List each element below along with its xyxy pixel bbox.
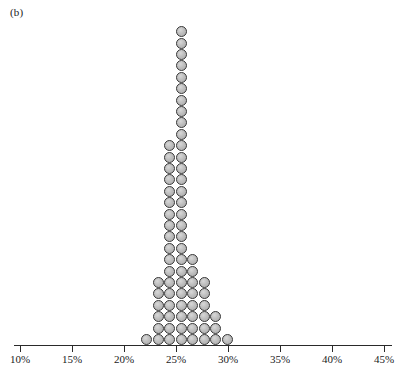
figure-canvas: (b) 10%15%20%25%30%35%40%45% <box>0 0 400 369</box>
x-axis-tick-label: 25% <box>146 353 206 365</box>
data-dot <box>176 152 187 163</box>
data-dot <box>153 288 164 299</box>
data-dot <box>164 300 175 311</box>
data-dot <box>187 288 198 299</box>
data-dot <box>199 334 210 345</box>
data-dot <box>176 197 187 208</box>
x-axis-tick <box>280 346 281 352</box>
x-axis-tick <box>176 346 177 352</box>
x-axis-tick-label: 45% <box>354 353 400 365</box>
data-dot <box>176 231 187 242</box>
data-dot <box>176 117 187 128</box>
data-dot <box>164 254 175 265</box>
data-dot <box>176 277 187 288</box>
data-dot <box>164 266 175 277</box>
data-dot <box>164 220 175 231</box>
x-axis-line <box>14 345 392 346</box>
data-dot <box>176 300 187 311</box>
dot-plot-area <box>0 0 400 345</box>
data-dot <box>176 72 187 83</box>
data-dot <box>176 254 187 265</box>
data-dot <box>164 243 175 254</box>
data-dot <box>176 220 187 231</box>
data-dot <box>164 277 175 288</box>
x-axis-tick <box>384 346 385 352</box>
data-dot <box>164 152 175 163</box>
data-dot <box>176 95 187 106</box>
x-axis-tick <box>332 346 333 352</box>
data-dot <box>199 300 210 311</box>
data-dot <box>199 277 210 288</box>
x-axis-tick <box>72 346 73 352</box>
data-dot <box>153 277 164 288</box>
data-dot <box>176 83 187 94</box>
x-axis-tick <box>20 346 21 352</box>
data-dot <box>176 243 187 254</box>
data-dot <box>176 129 187 140</box>
data-dot <box>164 323 175 334</box>
data-dot <box>176 311 187 322</box>
data-dot <box>187 334 198 345</box>
data-dot <box>210 311 221 322</box>
data-dot <box>176 174 187 185</box>
data-dot <box>199 323 210 334</box>
data-dot <box>187 254 198 265</box>
data-dot <box>164 288 175 299</box>
data-dot <box>187 266 198 277</box>
data-dot <box>176 163 187 174</box>
x-axis-tick-label: 35% <box>250 353 310 365</box>
x-axis-tick-label: 40% <box>302 353 362 365</box>
data-dot <box>164 231 175 242</box>
data-dot <box>164 163 175 174</box>
data-dot <box>176 38 187 49</box>
data-dot <box>199 311 210 322</box>
data-dot <box>176 26 187 37</box>
x-axis-tick-label: 30% <box>198 353 258 365</box>
data-dot <box>164 174 175 185</box>
data-dot <box>153 300 164 311</box>
data-dot <box>187 300 198 311</box>
data-dot <box>176 140 187 151</box>
x-axis-tick <box>228 346 229 352</box>
data-dot <box>153 323 164 334</box>
data-dot <box>164 140 175 151</box>
data-dot <box>176 334 187 345</box>
data-dot <box>176 209 187 220</box>
data-dot <box>176 49 187 60</box>
data-dot <box>164 186 175 197</box>
data-dot <box>164 209 175 220</box>
data-dot <box>199 288 210 299</box>
data-dot <box>164 311 175 322</box>
data-dot <box>153 311 164 322</box>
data-dot <box>210 323 221 334</box>
data-dot <box>187 311 198 322</box>
data-dot <box>141 334 152 345</box>
data-dot <box>210 334 221 345</box>
data-dot <box>176 106 187 117</box>
x-axis-tick-label: 15% <box>42 353 102 365</box>
data-dot <box>153 334 164 345</box>
x-axis-tick <box>124 346 125 352</box>
data-dot <box>176 323 187 334</box>
data-dot <box>187 277 198 288</box>
data-dot <box>176 60 187 71</box>
data-dot <box>176 186 187 197</box>
data-dot <box>164 334 175 345</box>
data-dot <box>164 197 175 208</box>
data-dot <box>176 266 187 277</box>
x-axis-tick-label: 20% <box>94 353 154 365</box>
data-dot <box>222 334 233 345</box>
data-dot <box>187 323 198 334</box>
data-dot <box>176 288 187 299</box>
